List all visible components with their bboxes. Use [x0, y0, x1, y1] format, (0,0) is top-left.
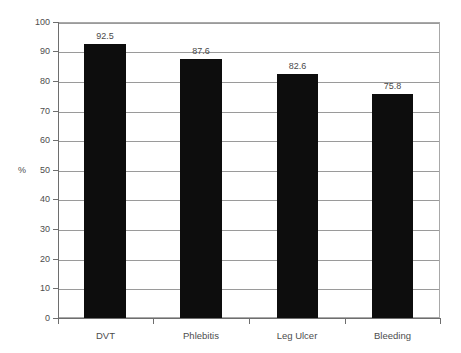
y-axis-tick-label: 100 — [4, 17, 50, 27]
y-tick-80 — [53, 81, 58, 82]
y-tick-70 — [53, 111, 58, 112]
bar-value-label: 92.5 — [84, 31, 126, 41]
bar-value-label: 75.8 — [372, 81, 413, 91]
y-tick-10 — [53, 288, 58, 289]
y-axis-tick-label: 10 — [4, 283, 50, 293]
x-tick — [153, 319, 154, 324]
bar-value-label: 87.6 — [180, 46, 222, 56]
bar-chart: 100 90 80 70 60 50 40 30 20 10 0 % 92.5 … — [0, 0, 461, 353]
y-tick-60 — [53, 140, 58, 141]
y-axis-title: % — [18, 165, 26, 175]
bar-phlebitis[interactable] — [180, 59, 222, 318]
bar-bleeding[interactable] — [372, 94, 413, 318]
x-tick — [58, 319, 59, 324]
y-axis-tick-label: 50 — [4, 165, 50, 175]
bar-dvt[interactable] — [84, 44, 126, 318]
x-tick — [345, 319, 346, 324]
y-axis-line — [58, 22, 59, 319]
gridline-100 — [59, 23, 439, 24]
y-tick-90 — [53, 51, 58, 52]
y-tick-20 — [53, 259, 58, 260]
y-tick-40 — [53, 199, 58, 200]
y-axis-tick-label: 70 — [4, 106, 50, 116]
x-axis-category-label: Phlebitis — [153, 330, 249, 341]
y-tick-30 — [53, 229, 58, 230]
bar-leg-ulcer[interactable] — [277, 74, 318, 318]
y-axis-tick-label: 20 — [4, 254, 50, 264]
bar-value-label: 82.6 — [277, 61, 318, 71]
y-axis-tick-label: 80 — [4, 76, 50, 86]
y-axis-tick-label: 0 — [4, 313, 50, 323]
y-axis-labels: 100 90 80 70 60 50 40 30 20 10 0 — [0, 0, 50, 353]
x-tick — [249, 319, 250, 324]
x-tick — [440, 319, 441, 324]
x-axis-category-label: DVT — [58, 330, 153, 341]
y-axis-tick-label: 40 — [4, 194, 50, 204]
y-tick-100 — [53, 22, 58, 23]
x-axis-category-label: Leg Ulcer — [249, 330, 345, 341]
y-axis-tick-label: 30 — [4, 224, 50, 234]
y-axis-tick-label: 90 — [4, 46, 50, 56]
y-axis-tick-label: 60 — [4, 135, 50, 145]
x-axis-category-label: Bleeding — [345, 330, 440, 341]
y-tick-50 — [53, 170, 58, 171]
